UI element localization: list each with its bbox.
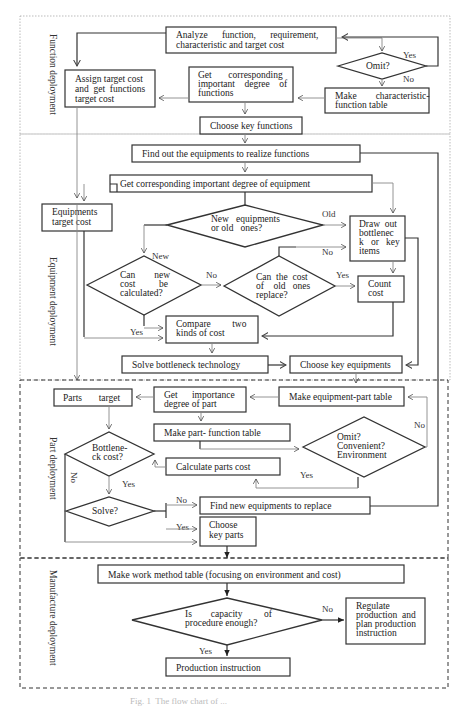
label-no: No (322, 247, 333, 257)
svg-text:Choose key functions: Choose key functions (210, 121, 293, 131)
node-bottleneck-cost-decision: Bottlene- ck cost? (65, 432, 154, 476)
svg-text:Equipments: Equipments (52, 207, 98, 217)
svg-text:Environment: Environment (337, 450, 387, 460)
svg-text:Solve bottleneck technology: Solve bottleneck technology (132, 360, 240, 370)
svg-text:Find out the equipments to rea: Find out the equipments to realize funct… (142, 149, 310, 159)
svg-text:Solve?: Solve? (92, 506, 118, 516)
node-find-equipments: Find out the equipments to realize funct… (132, 145, 360, 162)
svg-text:Make part- function table: Make part- function table (164, 428, 261, 438)
svg-text:or old ones?: or old ones? (211, 223, 262, 233)
section-label-equipment: Equipment deployment (48, 257, 58, 346)
label-new: New (152, 251, 169, 261)
label-yes: Yes (122, 479, 136, 489)
node-get-function-degree: Get corresponding important degree of fu… (189, 67, 293, 102)
svg-text:key parts: key parts (209, 530, 244, 540)
node-make-work-method-table: Make work method table (focusing on envi… (98, 565, 404, 583)
figure-caption: Fig. 1 The flow chart of ... (130, 696, 227, 706)
svg-text:functions: functions (198, 88, 234, 98)
svg-text:kinds of cost: kinds of cost (176, 328, 225, 338)
svg-text:replace?: replace? (256, 290, 288, 300)
svg-text:calculated?: calculated? (120, 288, 163, 298)
svg-text:Find new equipments to replace: Find new equipments to replace (210, 501, 331, 511)
flowchart-diagram: Function deployment Equipment deployment… (0, 0, 463, 707)
node-regulate-production: Regulate production and plan production … (346, 598, 425, 644)
section-label-manufacture: Manufacture deployment (48, 570, 58, 666)
node-make-characteristic-table: Make characteristic- function table (325, 88, 429, 113)
node-solve-decision: Solve? (66, 497, 154, 526)
node-new-or-old-decision: New equipments or old ones? (167, 205, 323, 247)
label-old: Old (322, 209, 336, 219)
svg-text:Choose key equipments: Choose key equipments (300, 360, 391, 370)
svg-text:Make equipment-part table: Make equipment-part table (289, 392, 392, 402)
node-get-equipment-degree: Get corresponding important degree of eq… (110, 175, 372, 192)
node-production-instruction: Production instruction (166, 658, 290, 676)
label-yes: Yes (336, 270, 350, 280)
section-label-part: Part deployment (48, 437, 58, 500)
node-omit-convenient-environment-decision: Omit? Convenient? Environment (303, 417, 425, 477)
node-count-cost: Count cost (358, 276, 404, 302)
svg-text:Analyze function, re: Analyze function, requirement, (176, 30, 318, 40)
svg-text:Assign target cost: Assign target cost (75, 74, 143, 84)
node-can-old-replace-decision: Can the cost of old ones replace? (224, 256, 335, 316)
label-yes: Yes (176, 522, 190, 532)
svg-text:and get functions: and get functions (75, 84, 145, 94)
node-choose-key-functions: Choose key functions (200, 117, 302, 134)
svg-text:items: items (359, 246, 380, 256)
label-yes: Yes (199, 646, 213, 656)
node-find-new-equipments: Find new equipments to replace (200, 497, 370, 514)
node-draw-bottleneck: Draw out bottlenec k or key items (350, 216, 405, 261)
node-analyze: Analyze function, requirement, character… (166, 27, 336, 53)
svg-text:Omit?: Omit? (366, 61, 390, 71)
svg-text:ck cost?: ck cost? (92, 452, 123, 462)
svg-text:Production instruction: Production instruction (176, 663, 261, 673)
svg-text:Choose: Choose (209, 520, 238, 530)
svg-text:Get corresponding important de: Get corresponding important degree of eq… (120, 179, 311, 189)
label-no: No (176, 495, 187, 505)
node-can-new-cost-decision: Can new cost be calculated? (87, 256, 201, 315)
svg-text:procedure enough?: procedure enough? (185, 618, 258, 628)
label-no: No (206, 270, 217, 280)
label-yes: Yes (403, 50, 417, 60)
node-capacity-decision: Is capacity of procedure enough? (132, 598, 322, 645)
svg-text:target cost: target cost (75, 94, 114, 104)
node-parts-target: Parts target (54, 389, 132, 406)
node-make-equipment-part-table: Make equipment-part table (279, 387, 404, 406)
node-calculate-parts-cost: Calculate parts cost (166, 458, 280, 475)
node-make-part-function-table: Make part- function table (154, 424, 290, 441)
node-get-part-degree: Get importance degree of part (154, 387, 246, 412)
svg-text:Parts target: Parts target (63, 393, 120, 403)
svg-text:characteristic and target cost: characteristic and target cost (176, 40, 285, 50)
svg-text:cost: cost (368, 288, 384, 298)
svg-text:Make work method table (focusi: Make work method table (focusing on envi… (108, 570, 341, 581)
node-solve-bottleneck: Solve bottleneck technology (122, 356, 268, 373)
label-yes: Yes (300, 470, 314, 480)
node-choose-key-equipments: Choose key equipments (290, 356, 402, 373)
label-no: No (403, 74, 414, 84)
label-yes: Yes (130, 327, 144, 337)
label-no: No (414, 420, 425, 430)
svg-text:function table: function table (335, 100, 388, 110)
svg-text:target cost: target cost (52, 217, 91, 227)
node-assign-target-cost: Assign target cost and get functions tar… (65, 70, 155, 107)
node-choose-key-parts: Choose key parts (200, 517, 256, 546)
svg-text:Calculate parts cost: Calculate parts cost (176, 462, 251, 472)
label-no: No (322, 604, 333, 614)
label-no: No (69, 472, 79, 483)
section-label-function: Function deployment (48, 34, 58, 115)
node-compare-costs: Compare two kinds of cost (166, 316, 258, 343)
svg-text:degree of part: degree of part (164, 399, 217, 409)
svg-text:instruction: instruction (356, 628, 397, 638)
